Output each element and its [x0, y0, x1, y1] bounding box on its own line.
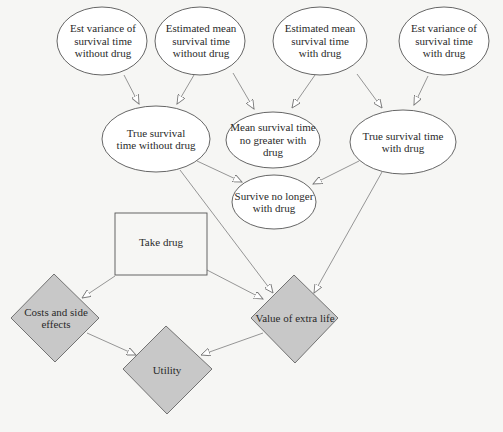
- edge-true-with-to-survive-no-longer: [313, 161, 359, 184]
- edge-take-drug-to-value: [207, 270, 263, 299]
- node-costs-shape[interactable]: [11, 274, 99, 362]
- edge-true-without-to-survive-no-longer: [197, 161, 242, 182]
- influence-diagram: Est variance of survival time without dr…: [0, 0, 503, 432]
- edge-estmean-without-to-true-without: [177, 75, 194, 104]
- node-mean-no-greater-shape[interactable]: [226, 112, 320, 168]
- node-true-without-shape[interactable]: [102, 106, 210, 172]
- edge-estmean-with-to-true-with: [357, 74, 382, 108]
- edge-true-with-to-value: [314, 172, 382, 293]
- node-est-var-without-shape[interactable]: [57, 7, 147, 75]
- node-est-mean-with-shape[interactable]: [273, 7, 367, 75]
- node-value-extra-life-shape[interactable]: [251, 275, 338, 363]
- node-utility-shape[interactable]: [123, 326, 212, 414]
- edge-estmean-without-to-mean-no-greater: [233, 73, 254, 109]
- node-est-mean-without-shape[interactable]: [155, 7, 245, 75]
- edge-estvar-with-to-true-with: [414, 76, 428, 105]
- node-true-with-shape[interactable]: [350, 110, 456, 174]
- edge-value-to-utility: [201, 333, 263, 355]
- edge-estvar-without-to-true-without: [124, 75, 139, 104]
- node-take-drug-shape[interactable]: [115, 213, 207, 275]
- edge-estmean-with-to-mean-no-greater: [292, 75, 315, 108]
- edge-take-drug-to-costs: [82, 276, 115, 298]
- node-est-var-with-shape[interactable]: [399, 7, 489, 75]
- diagram-canvas: [0, 0, 503, 432]
- node-survive-no-longer-shape[interactable]: [232, 175, 316, 229]
- edge-costs-to-utility: [87, 333, 136, 355]
